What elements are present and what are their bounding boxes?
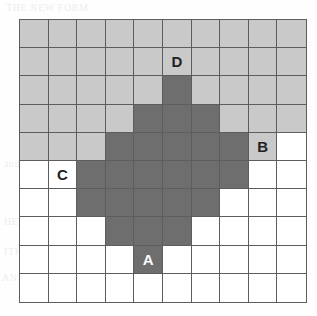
grid-cell-r8-c2[interactable] [77, 246, 106, 274]
grid-cell-r2-c6[interactable] [192, 76, 221, 104]
grid-cell-r1-c7[interactable] [220, 48, 249, 76]
grid-cell-r7-c0[interactable] [20, 217, 49, 245]
grid-cell-r1-c4[interactable] [134, 48, 163, 76]
grid-cell-r0-c7[interactable] [220, 20, 249, 48]
grid-cell-r8-c8[interactable] [249, 246, 278, 274]
grid-cell-r7-c3[interactable] [106, 217, 135, 245]
grid-cell-r4-c7[interactable] [220, 133, 249, 161]
grid-cell-r5-c1[interactable]: C [49, 161, 78, 189]
grid-cell-r1-c5[interactable]: D [163, 48, 192, 76]
grid-cell-r3-c2[interactable] [77, 105, 106, 133]
grid-cell-r4-c1[interactable] [49, 133, 78, 161]
grid-cell-r7-c6[interactable] [192, 217, 221, 245]
grid-cell-r0-c6[interactable] [192, 20, 221, 48]
grid-cell-r2-c0[interactable] [20, 76, 49, 104]
grid-cell-r8-c9[interactable] [277, 246, 306, 274]
grid-cell-r7-c8[interactable] [249, 217, 278, 245]
grid-cell-r5-c8[interactable] [249, 161, 278, 189]
grid-cell-r3-c0[interactable] [20, 105, 49, 133]
grid-cell-r8-c0[interactable] [20, 246, 49, 274]
grid-cell-r5-c2[interactable] [77, 161, 106, 189]
grid-cell-r4-c0[interactable] [20, 133, 49, 161]
grid-cell-r5-c6[interactable] [192, 161, 221, 189]
grid-cell-r4-c9[interactable] [277, 133, 306, 161]
grid-cell-r0-c9[interactable] [277, 20, 306, 48]
grid-cell-r4-c4[interactable] [134, 133, 163, 161]
grid-cell-r2-c2[interactable] [77, 76, 106, 104]
grid-cell-r3-c9[interactable] [277, 105, 306, 133]
grid-cell-r4-c3[interactable] [106, 133, 135, 161]
grid-cell-r5-c3[interactable] [106, 161, 135, 189]
grid-cell-r2-c8[interactable] [249, 76, 278, 104]
grid-cell-r9-c0[interactable] [20, 274, 49, 302]
grid-cell-r9-c7[interactable] [220, 274, 249, 302]
grid-cell-r4-c5[interactable] [163, 133, 192, 161]
grid-cell-r1-c1[interactable] [49, 48, 78, 76]
grid-cell-r9-c8[interactable] [249, 274, 278, 302]
grid-cell-r5-c4[interactable] [134, 161, 163, 189]
grid-cell-r4-c8[interactable]: B [249, 133, 278, 161]
grid-cell-r0-c1[interactable] [49, 20, 78, 48]
grid-cell-r7-c1[interactable] [49, 217, 78, 245]
grid-cell-r1-c8[interactable] [249, 48, 278, 76]
grid-cell-r6-c7[interactable] [220, 189, 249, 217]
grid-cell-r6-c2[interactable] [77, 189, 106, 217]
grid-cell-r3-c8[interactable] [249, 105, 278, 133]
grid-cell-r9-c1[interactable] [49, 274, 78, 302]
grid-cell-r9-c6[interactable] [192, 274, 221, 302]
grid-cell-r0-c0[interactable] [20, 20, 49, 48]
grid-cell-r8-c1[interactable] [49, 246, 78, 274]
grid-cell-r1-c9[interactable] [277, 48, 306, 76]
grid-cell-r7-c4[interactable] [134, 217, 163, 245]
grid-cell-r3-c7[interactable] [220, 105, 249, 133]
grid-cell-r7-c2[interactable] [77, 217, 106, 245]
grid-cell-r3-c3[interactable] [106, 105, 135, 133]
grid-cell-r3-c6[interactable] [192, 105, 221, 133]
grid-cell-r8-c3[interactable] [106, 246, 135, 274]
grid-cell-r0-c4[interactable] [134, 20, 163, 48]
grid-cell-r7-c5[interactable] [163, 217, 192, 245]
grid-cell-r6-c9[interactable] [277, 189, 306, 217]
grid-cell-r5-c7[interactable] [220, 161, 249, 189]
grid-cell-r7-c9[interactable] [277, 217, 306, 245]
grid-cell-r6-c3[interactable] [106, 189, 135, 217]
grid-cell-r6-c0[interactable] [20, 189, 49, 217]
grid-cell-r3-c5[interactable] [163, 105, 192, 133]
grid-cell-r9-c4[interactable] [134, 274, 163, 302]
grid-cell-r6-c1[interactable] [49, 189, 78, 217]
grid-cell-r1-c0[interactable] [20, 48, 49, 76]
grid-cell-r0-c2[interactable] [77, 20, 106, 48]
grid-cell-r9-c9[interactable] [277, 274, 306, 302]
grid-cell-r5-c5[interactable] [163, 161, 192, 189]
grid-cell-r2-c5[interactable] [163, 76, 192, 104]
grid-cell-r8-c7[interactable] [220, 246, 249, 274]
grid-cell-r4-c2[interactable] [77, 133, 106, 161]
grid-cell-r9-c3[interactable] [106, 274, 135, 302]
grid-cell-r1-c3[interactable] [106, 48, 135, 76]
grid-cell-r7-c7[interactable] [220, 217, 249, 245]
grid-cell-r1-c2[interactable] [77, 48, 106, 76]
grid-cell-r2-c9[interactable] [277, 76, 306, 104]
grid-cell-r4-c6[interactable] [192, 133, 221, 161]
grid-cell-r2-c3[interactable] [106, 76, 135, 104]
grid-cell-r3-c4[interactable] [134, 105, 163, 133]
grid-cell-r1-c6[interactable] [192, 48, 221, 76]
grid-cell-r5-c9[interactable] [277, 161, 306, 189]
grid-cell-r6-c5[interactable] [163, 189, 192, 217]
grid-cell-r0-c8[interactable] [249, 20, 278, 48]
grid-cell-r2-c4[interactable] [134, 76, 163, 104]
grid-cell-r2-c1[interactable] [49, 76, 78, 104]
grid-cell-r8-c5[interactable] [163, 246, 192, 274]
grid-cell-r3-c1[interactable] [49, 105, 78, 133]
grid-cell-r9-c2[interactable] [77, 274, 106, 302]
grid-cell-r9-c5[interactable] [163, 274, 192, 302]
grid-cell-r2-c7[interactable] [220, 76, 249, 104]
grid-cell-r0-c5[interactable] [163, 20, 192, 48]
grid-cell-r6-c4[interactable] [134, 189, 163, 217]
grid-cell-r8-c4[interactable]: A [134, 246, 163, 274]
grid-cell-r5-c0[interactable] [20, 161, 49, 189]
grid-cell-r0-c3[interactable] [106, 20, 135, 48]
grid-cell-r6-c8[interactable] [249, 189, 278, 217]
grid-cell-r8-c6[interactable] [192, 246, 221, 274]
grid-cell-r6-c6[interactable] [192, 189, 221, 217]
